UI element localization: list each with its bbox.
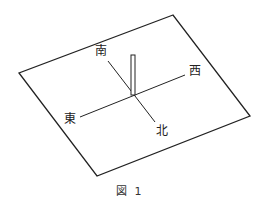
label-north: 北 <box>156 125 168 137</box>
gnomon-pole <box>131 55 135 95</box>
label-east: 東 <box>64 113 76 125</box>
figure-caption: 図 1 <box>116 186 144 197</box>
diagram-canvas <box>0 0 263 214</box>
label-south: 南 <box>95 45 107 57</box>
label-west: 西 <box>189 65 201 77</box>
